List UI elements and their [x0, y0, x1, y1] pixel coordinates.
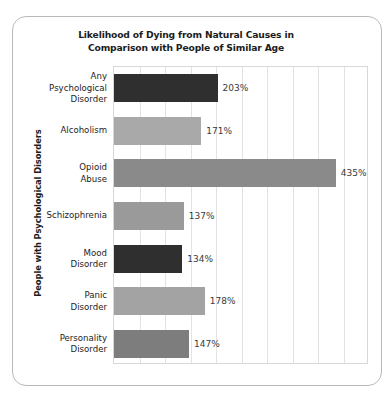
chart-title: Likelihood of Dying from Natural Causes …	[36, 28, 336, 54]
bar-value-label: 147%	[194, 339, 220, 349]
bar-row: PanicDisorder178%	[114, 280, 367, 323]
bar	[114, 245, 182, 273]
bar-value-label: 134%	[187, 254, 213, 264]
category-label: MoodDisorder	[14, 247, 114, 270]
bar-value-label: 203%	[223, 83, 249, 93]
bar	[114, 287, 205, 315]
category-label-line: Personality	[60, 332, 107, 342]
chart-title-line-1: Likelihood of Dying from Natural Causes …	[78, 29, 294, 40]
screenshot-root: Likelihood of Dying from Natural Causes …	[0, 0, 392, 398]
category-label-line: Panic	[84, 290, 107, 300]
bar	[114, 330, 189, 358]
category-label-line: Disorder	[71, 259, 107, 269]
category-label-line: Any	[91, 71, 107, 81]
bar-row: MoodDisorder134%	[114, 237, 367, 280]
category-label: Schizophrenia	[14, 210, 114, 222]
chart-title-line-2: Comparison with People of Similar Age	[88, 42, 284, 53]
category-label-line: Abuse	[80, 173, 107, 183]
category-label-line: Disorder	[71, 344, 107, 354]
category-label: AnyPsychologicalDisorder	[14, 71, 114, 106]
bar-row: PersonalityDisorder147%	[114, 322, 367, 365]
category-label-line: Mood	[84, 247, 107, 257]
category-label: PersonalityDisorder	[14, 332, 114, 355]
bar	[114, 74, 218, 102]
category-label-line: Alcoholism	[60, 125, 107, 135]
category-label-line: Psychological	[49, 83, 107, 93]
category-label: PanicDisorder	[14, 290, 114, 313]
bar-row: OpioidAbuse435%	[114, 152, 367, 195]
category-label: Alcoholism	[14, 125, 114, 137]
bar-value-label: 137%	[189, 211, 215, 221]
bar	[114, 117, 201, 145]
plot-area: AnyPsychologicalDisorder203%Alcoholism17…	[113, 66, 368, 364]
bar-row: Schizophrenia137%	[114, 195, 367, 238]
bar-row: Alcoholism171%	[114, 110, 367, 153]
category-label: OpioidAbuse	[14, 162, 114, 185]
category-label-line: Schizophrenia	[47, 210, 107, 220]
bar	[114, 159, 336, 187]
bar-row: AnyPsychologicalDisorder203%	[114, 67, 367, 110]
category-label-line: Disorder	[71, 301, 107, 311]
bar	[114, 202, 184, 230]
category-label-line: Opioid	[79, 162, 107, 172]
bar-value-label: 171%	[206, 126, 232, 136]
bar-value-label: 435%	[341, 168, 367, 178]
bar-value-label: 178%	[210, 296, 236, 306]
category-label-line: Disorder	[71, 94, 107, 104]
